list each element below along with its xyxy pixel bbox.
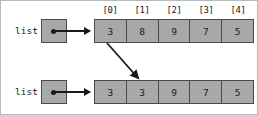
array-cell-3: 7 xyxy=(190,20,222,42)
array-cell-0: 3 xyxy=(95,81,127,103)
array-cell-2: 9 xyxy=(159,81,191,103)
array-assignment-diagram: [0] [1] [2] [3] [4] list 3 8 9 7 5 list … xyxy=(0,0,258,115)
array-cell-0: 3 xyxy=(95,20,127,42)
index-label-2: [2] xyxy=(158,3,190,17)
array-cell-3: 7 xyxy=(190,81,222,103)
array-cell-1: 8 xyxy=(127,20,159,42)
index-label-1: [1] xyxy=(126,3,158,17)
array-cell-4: 5 xyxy=(222,81,253,103)
pointer-arrow-top-icon xyxy=(52,26,90,36)
index-label-4: [4] xyxy=(222,3,254,17)
index-label-0: [0] xyxy=(94,3,126,17)
array-cell-2: 9 xyxy=(159,20,191,42)
array-row-after: 3 3 9 7 5 xyxy=(94,80,254,104)
copy-arrow-line xyxy=(107,43,138,78)
arrow-head xyxy=(84,27,91,35)
pointer-arrow-bottom-icon xyxy=(52,87,90,97)
index-label-3: [3] xyxy=(190,3,222,17)
array-cell-4: 5 xyxy=(222,20,253,42)
array-index-header: [0] [1] [2] [3] [4] xyxy=(94,3,254,17)
array-cell-1: 3 xyxy=(127,81,159,103)
array-row-before: 3 8 9 7 5 xyxy=(94,19,254,43)
variable-label-top: list xyxy=(15,25,38,37)
variable-label-bottom: list xyxy=(15,86,38,98)
arrow-head xyxy=(84,88,91,96)
